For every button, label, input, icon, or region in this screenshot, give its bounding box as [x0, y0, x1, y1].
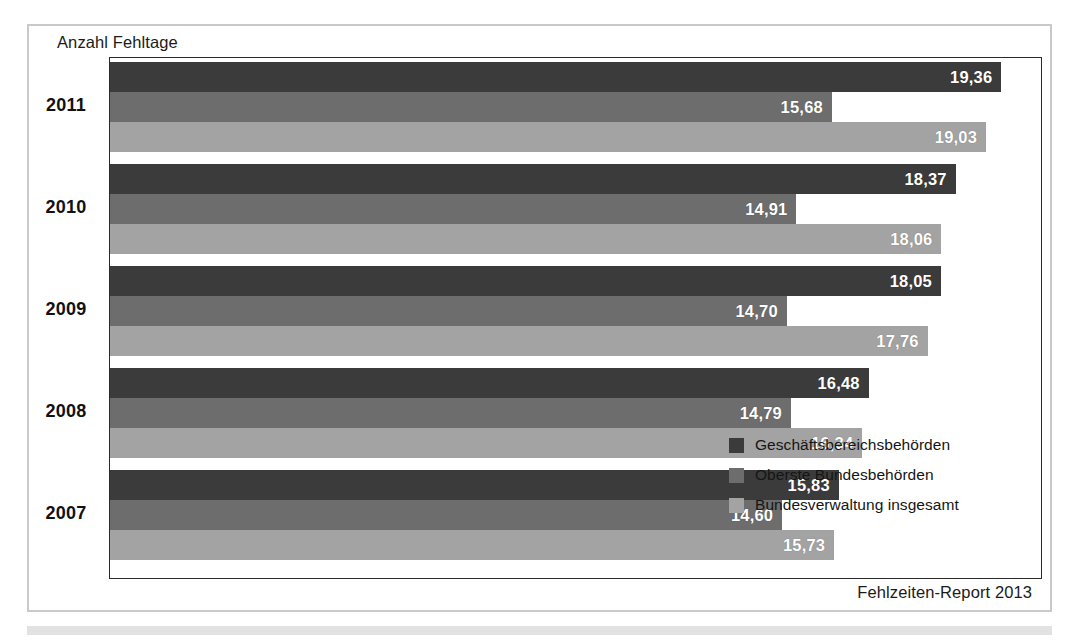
bar-2011-series-3[interactable]: 19,03 — [110, 122, 986, 152]
bar-2008-series-1[interactable]: 16,48 — [110, 368, 869, 398]
figure-frame: Anzahl Fehltage 19,3615,6819,0318,3714,9… — [27, 24, 1052, 612]
year-group-2010: 18,3714,9118,06 — [110, 164, 1041, 254]
bar-row: 19,36 — [110, 62, 1041, 92]
bar-2009-series-1[interactable]: 18,05 — [110, 266, 941, 296]
bar-2010-series-2[interactable]: 14,91 — [110, 194, 796, 224]
legend-swatch-icon — [729, 468, 744, 483]
bar-2010-series-1[interactable]: 18,37 — [110, 164, 956, 194]
year-label-2010: 2010 — [29, 197, 103, 218]
bar-2011-series-2[interactable]: 15,68 — [110, 92, 832, 122]
bar-value-label: 17,76 — [876, 332, 927, 351]
bar-row: 14,79 — [110, 398, 1041, 428]
bar-2008-series-2[interactable]: 14,79 — [110, 398, 791, 428]
year-label-2009: 2009 — [29, 299, 103, 320]
bar-value-label: 18,05 — [890, 272, 941, 291]
bar-value-label: 18,06 — [890, 230, 941, 249]
bar-2007-series-3[interactable]: 15,73 — [110, 530, 834, 560]
year-group-2011: 19,3615,6819,03 — [110, 62, 1041, 152]
chart-legend: GeschäftsbereichsbehördenOberste Bundesb… — [729, 430, 959, 520]
bar-row: 17,76 — [110, 326, 1041, 356]
axis-caption: Anzahl Fehltage — [57, 33, 178, 52]
legend-item-3[interactable]: Bundesverwaltung insgesamt — [729, 490, 959, 520]
bar-value-label: 14,70 — [735, 302, 786, 321]
bar-value-label: 19,03 — [935, 128, 986, 147]
bar-row: 18,05 — [110, 266, 1041, 296]
legend-item-1[interactable]: Geschäftsbereichsbehörden — [729, 430, 959, 460]
bar-row: 15,68 — [110, 92, 1041, 122]
bar-row: 14,91 — [110, 194, 1041, 224]
bar-row: 18,37 — [110, 164, 1041, 194]
year-label-2007: 2007 — [29, 503, 103, 524]
bar-value-label: 15,73 — [783, 536, 834, 555]
bar-2007-series-2[interactable]: 14,60 — [110, 500, 782, 530]
legend-swatch-icon — [729, 438, 744, 453]
year-label-2008: 2008 — [29, 401, 103, 422]
bar-row: 15,73 — [110, 530, 1041, 560]
bar-row: 16,48 — [110, 368, 1041, 398]
footer-note: Fehlzeiten-Report 2013 — [857, 583, 1032, 602]
bar-value-label: 18,37 — [904, 170, 955, 189]
legend-swatch-icon — [729, 498, 744, 513]
legend-item-2[interactable]: Oberste Bundesbehörden — [729, 460, 959, 490]
bar-value-label: 16,48 — [817, 374, 868, 393]
bar-value-label: 14,79 — [740, 404, 791, 423]
bar-value-label: 15,68 — [781, 98, 832, 117]
year-group-2009: 18,0514,7017,76 — [110, 266, 1041, 356]
bar-2010-series-3[interactable]: 18,06 — [110, 224, 941, 254]
legend-label: Oberste Bundesbehörden — [755, 466, 934, 484]
bar-value-label: 19,36 — [950, 68, 1001, 87]
legend-label: Geschäftsbereichsbehörden — [755, 436, 950, 454]
year-label-2011: 2011 — [29, 95, 103, 116]
bottom-separator-band — [27, 626, 1052, 635]
bar-row: 19,03 — [110, 122, 1041, 152]
bar-2009-series-2[interactable]: 14,70 — [110, 296, 787, 326]
bar-row: 14,70 — [110, 296, 1041, 326]
bar-row: 18,06 — [110, 224, 1041, 254]
bar-value-label: 14,91 — [745, 200, 796, 219]
legend-label: Bundesverwaltung insgesamt — [755, 496, 959, 514]
bar-2009-series-3[interactable]: 17,76 — [110, 326, 928, 356]
bar-2011-series-1[interactable]: 19,36 — [110, 62, 1001, 92]
